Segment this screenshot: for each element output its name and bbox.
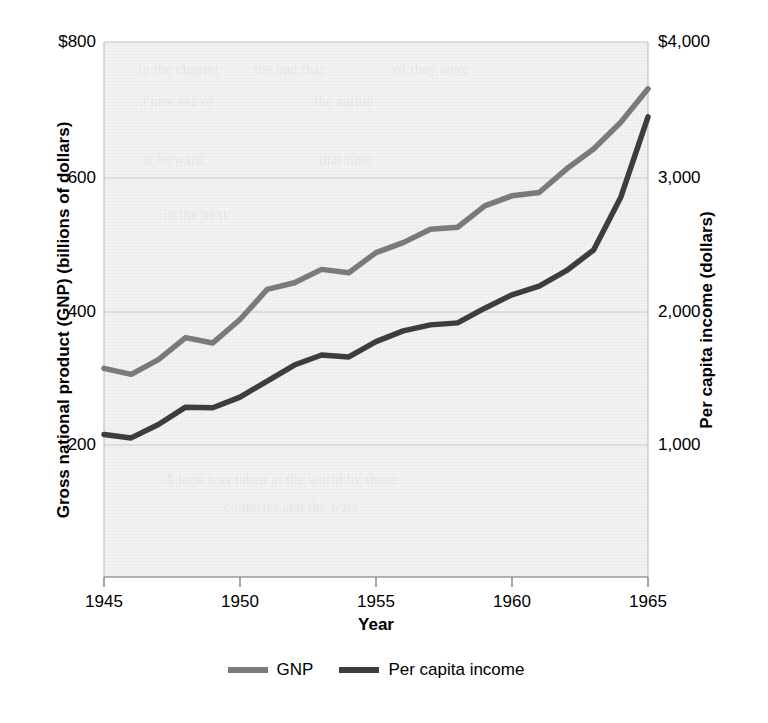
gridlines bbox=[104, 42, 648, 445]
chart-legend: GNP Per capita income bbox=[104, 660, 648, 680]
axis-spines bbox=[104, 42, 648, 577]
x-axis-ticks bbox=[104, 577, 648, 587]
x-tick-label-1950: 1950 bbox=[221, 592, 259, 612]
y2-tick-label-3000: 3,000 bbox=[658, 168, 701, 188]
y2-tick-label-1000: 1,000 bbox=[658, 435, 701, 455]
y-tick-label-800: $800 bbox=[20, 32, 96, 52]
legend-label-gnp: GNP bbox=[277, 660, 314, 680]
legend-swatch-icon bbox=[228, 667, 268, 673]
x-tick-label-1960: 1960 bbox=[493, 592, 531, 612]
y-axis-title: Gross national product (GNP) (billions o… bbox=[54, 60, 74, 580]
legend-swatch-icon bbox=[339, 667, 379, 673]
line-series-per-capita-income bbox=[104, 117, 648, 438]
chart-plot bbox=[104, 42, 648, 577]
legend-label-per-capita-income: Per capita income bbox=[388, 660, 524, 680]
x-tick-label-1955: 1955 bbox=[357, 592, 395, 612]
chart-figure: in the chapter the bad that of they were… bbox=[0, 0, 768, 723]
x-axis-title: Year bbox=[104, 615, 648, 635]
y2-axis-title: Per capita income (dollars) bbox=[697, 85, 717, 555]
legend-item-per-capita-income: Per capita income bbox=[339, 660, 524, 680]
x-tick-label-1945: 1945 bbox=[85, 592, 123, 612]
y2-tick-label-4000: $4,000 bbox=[658, 32, 710, 52]
x-tick-label-1965: 1965 bbox=[629, 592, 667, 612]
legend-item-gnp: GNP bbox=[228, 660, 314, 680]
line-series-gnp bbox=[104, 89, 648, 375]
y2-tick-label-2000: 2,000 bbox=[658, 302, 701, 322]
